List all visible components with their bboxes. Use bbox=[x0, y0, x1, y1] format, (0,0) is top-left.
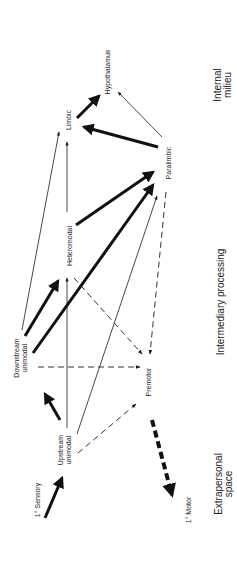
edge-heteromodal-to-paralimbic bbox=[76, 172, 153, 225]
edge-paralimbic-to-premotor bbox=[150, 192, 166, 354]
edge-paralimbic-to-hypothalamus bbox=[118, 92, 162, 137]
edge-premotor-to-motor bbox=[152, 420, 172, 495]
node-premotor: Premotor bbox=[145, 367, 152, 396]
hierarchy-diagram: Hypothalamus Limbic Paralimbic Heteromod… bbox=[0, 0, 237, 588]
edge-sensory-to-upstream bbox=[45, 478, 62, 518]
zones: Internal milieu Intermediary processing … bbox=[212, 68, 234, 515]
node-paralimbic: Paralimbic bbox=[165, 146, 172, 179]
node-hypothalamus: Hypothalamus bbox=[104, 49, 112, 94]
edge-paralimbic-to-limbic bbox=[84, 127, 158, 147]
edge-downstream-to-limbic bbox=[22, 132, 59, 330]
zone-extrapersonal-space-line2: space bbox=[223, 470, 234, 497]
node-primary-motor: 1° Motor bbox=[185, 496, 192, 523]
edge-upstream-to-downstream bbox=[45, 394, 60, 420]
edges bbox=[22, 92, 172, 518]
zone-intermediary-processing: Intermediary processing bbox=[215, 249, 226, 356]
node-upstream-unimodal-line2: unimodal bbox=[65, 435, 72, 464]
node-upstream-unimodal-line1: Upstream bbox=[57, 435, 65, 466]
edge-upstream-to-paralimbic bbox=[77, 196, 157, 434]
nodes: Hypothalamus Limbic Paralimbic Heteromod… bbox=[13, 49, 192, 523]
edge-limbic-to-hypothalamus bbox=[77, 96, 99, 118]
edge-upstream-to-premotor bbox=[78, 404, 136, 453]
node-downstream-unimodal-line1: Downstream bbox=[13, 338, 20, 377]
node-primary-sensory: 1° Sensory bbox=[34, 482, 42, 517]
node-heteromodal: Heteromodal bbox=[66, 226, 73, 267]
node-limbic: Limbic bbox=[65, 109, 72, 130]
zone-internal-milieu-line2: milieu bbox=[222, 72, 233, 98]
edge-downstream-to-paralimbic bbox=[33, 185, 153, 353]
node-downstream-unimodal-line2: unimodal bbox=[21, 343, 28, 372]
